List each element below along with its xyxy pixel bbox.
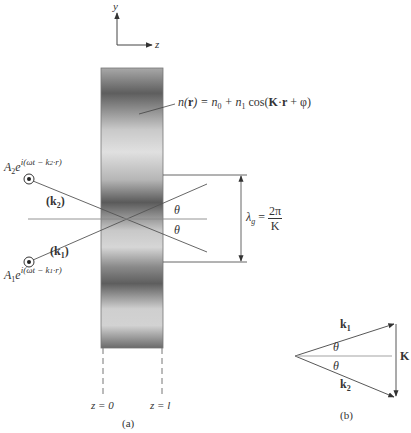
theta-upper-label: θ (174, 204, 180, 216)
z-axis-label: z (155, 39, 159, 50)
boundary-right-label: z = l (150, 400, 170, 411)
k1-vector-label: k1 (340, 318, 351, 330)
beam2-amplitude-label: A2ei(ωt − k2·r) (4, 161, 62, 173)
k2-vector-label: k2 (340, 378, 351, 390)
diagram-canvas (0, 0, 411, 433)
triangle-theta-upper: θ (333, 341, 339, 353)
triangle-theta-lower: θ (333, 360, 339, 372)
period-markers (163, 175, 247, 262)
grating-period-label: λg = 2πK (246, 205, 282, 232)
grating-vector-label: K (400, 350, 409, 362)
caption-a: (a) (122, 418, 134, 429)
y-axis-label: y (113, 1, 118, 12)
beam1-amplitude-label: A1ei(ωt − k1·r) (4, 269, 62, 281)
beam2-wavevector-label: (k2) (46, 195, 65, 207)
caption-b: (b) (340, 410, 353, 421)
beam1-wavevector-label: (k1) (50, 245, 69, 257)
theta-lower-label: θ (174, 224, 180, 236)
index-formula: n(r) = n0 + n1 cos(K·r + φ) (178, 96, 311, 108)
coordinate-axes (117, 13, 152, 45)
slab-boundaries (103, 348, 162, 396)
boundary-left-label: z = 0 (91, 400, 114, 411)
source-a2-icon (24, 174, 34, 184)
